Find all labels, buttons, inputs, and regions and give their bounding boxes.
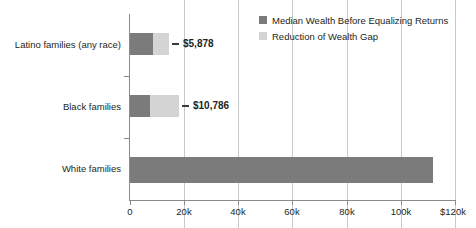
legend-item-median: Median Wealth Before Equalizing Returns (259, 13, 448, 27)
callout-dash-latino (172, 43, 179, 45)
x-tick-label-100k: 100k (391, 206, 412, 217)
bar-row-black (130, 95, 179, 117)
x-axis-tick-100k (401, 200, 402, 205)
x-tick-label-120k: $120k (440, 206, 466, 217)
x-axis-tick-60k (292, 200, 293, 205)
x-axis-tick-80k (347, 200, 348, 205)
x-tick-label-60k: 60k (284, 206, 299, 217)
bar-chart: Latino families (any race) Black familie… (0, 0, 476, 228)
y-axis-tick-2 (124, 138, 130, 139)
gridline-120k (455, 0, 456, 228)
bar-row-white (130, 157, 433, 183)
x-tick-label-40k: 40k (230, 206, 245, 217)
x-tick-label-80k: 80k (339, 206, 354, 217)
value-label-black: $10,786 (193, 100, 229, 111)
chart-legend: Median Wealth Before Equalizing Returns … (259, 13, 448, 45)
x-axis-tick-120k (455, 200, 456, 205)
bar-segment-latino-median (130, 33, 153, 55)
legend-label-median: Median Wealth Before Equalizing Returns (272, 15, 448, 26)
legend-swatch-icon-reduction (259, 32, 267, 40)
x-tick-label-20k: 20k (176, 206, 191, 217)
bar-segment-white-median (130, 157, 433, 183)
gridline-40k (238, 0, 239, 228)
legend-label-reduction: Reduction of Wealth Gap (272, 31, 378, 42)
bar-row-latino (130, 33, 169, 55)
value-label-latino: $5,878 (183, 38, 214, 49)
x-tick-label-0: 0 (127, 206, 132, 217)
category-label-latino: Latino families (any race) (0, 39, 121, 50)
legend-item-reduction: Reduction of Wealth Gap (259, 29, 448, 43)
category-label-white: White families (0, 163, 121, 174)
bar-segment-latino-reduction (153, 33, 169, 55)
x-axis-tick-40k (238, 200, 239, 205)
gridline-20k (184, 0, 185, 228)
y-axis-tick-1 (124, 76, 130, 77)
bar-segment-black-reduction (150, 95, 179, 117)
x-axis-tick-0 (130, 200, 131, 205)
x-axis-tick-20k (184, 200, 185, 205)
category-label-black: Black families (0, 101, 121, 112)
callout-dash-black (182, 105, 189, 107)
legend-swatch-icon-median (259, 16, 267, 24)
bar-segment-black-median (130, 95, 150, 117)
